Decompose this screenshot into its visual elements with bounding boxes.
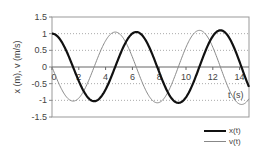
y-tick-label: -1 [39,95,47,105]
y-tick-label: 0 [42,62,47,72]
legend-label: x(t) [229,126,241,135]
y-tick-label: -0.5 [31,79,47,89]
y-tick-label: 1 [42,29,47,39]
legend-swatch-v [204,141,226,142]
legend-swatch-x [204,130,226,132]
x-axis-label: t (s) [228,90,244,100]
y-tick-label: -1.5 [31,112,47,122]
y-tick-label: 0.5 [34,45,47,55]
x-tick-label: 12 [208,72,218,82]
y-axis-ticks: 1.510.50-0.5-1-1.5 [31,12,52,122]
legend-item-v: v(t) [204,136,241,147]
y-axis-label: x (m), v (m/s) [12,41,22,94]
x-tick-label: 6 [130,72,135,82]
x-tick-label: 10 [181,72,191,82]
legend-label: v(t) [229,137,241,146]
x-tick-label: 4 [103,72,108,82]
legend-item-x: x(t) [204,125,241,136]
x-axis-ticks: 02468101214 [51,67,244,82]
y-tick-label: 1.5 [34,12,47,22]
legend: x(t) v(t) [204,125,241,147]
